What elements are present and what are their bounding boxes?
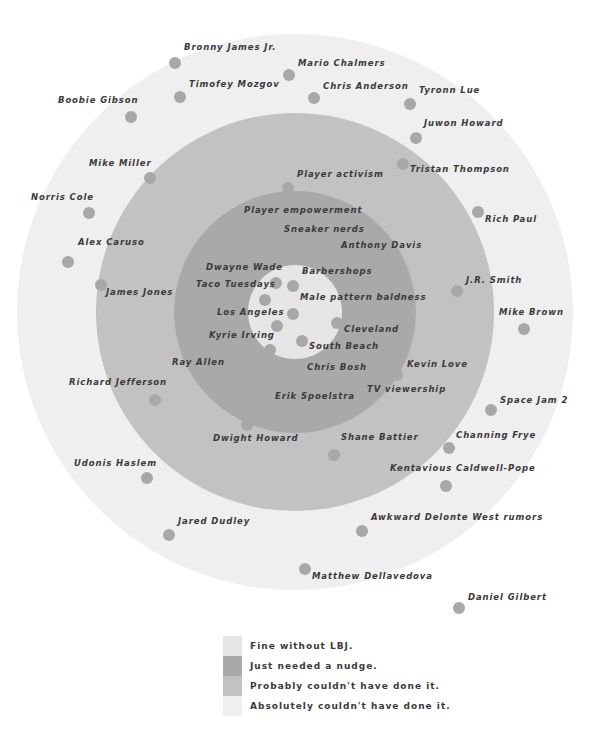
legend-label: Just needed a nudge. xyxy=(250,661,378,671)
data-point-label: Chris Anderson xyxy=(323,81,409,91)
data-point-dot xyxy=(169,57,181,69)
data-point-label: Mike Brown xyxy=(499,307,564,317)
data-point-label: Erik Spoelstra xyxy=(275,391,355,401)
data-point-dot xyxy=(440,480,452,492)
data-point-label: Juwon Howard xyxy=(424,118,504,128)
data-point-dot xyxy=(149,394,161,406)
data-point-label: Kentavious Caldwell-Pope xyxy=(390,463,536,473)
data-point-dot xyxy=(397,158,409,170)
data-point-label: Mario Chalmers xyxy=(298,58,386,68)
data-point-label: Tristan Thompson xyxy=(410,164,510,174)
data-point-label: Matthew Dellavedova xyxy=(312,571,433,581)
data-point-label: James Jones xyxy=(106,287,173,297)
data-point-label: Male pattern baldness xyxy=(300,292,426,302)
legend-swatch-nudge xyxy=(223,656,242,676)
data-point-dot xyxy=(174,91,186,103)
data-point-dot xyxy=(299,563,311,575)
data-point-dot xyxy=(472,206,484,218)
ring-chart: Bronny James Jr.Mario ChalmersTimofey Mo… xyxy=(0,0,590,620)
data-point-label: Jared Dudley xyxy=(178,516,250,526)
data-point-label: Daniel Gilbert xyxy=(468,592,547,602)
data-point-dot xyxy=(328,449,340,461)
data-point-label: Rich Paul xyxy=(485,214,537,224)
data-point-dot xyxy=(141,472,153,484)
data-point-dot xyxy=(62,256,74,268)
legend: Fine without LBJ. Just needed a nudge. P… xyxy=(223,636,451,716)
data-point-label: Dwayne Wade xyxy=(206,262,283,272)
data-point-dot xyxy=(264,344,276,356)
data-point-label: Timofey Mozgov xyxy=(189,79,280,89)
data-point-label: Alex Caruso xyxy=(78,237,145,247)
data-point-label: Norris Cole xyxy=(31,192,94,202)
data-point-dot xyxy=(163,529,175,541)
data-point-label: Los Angeles xyxy=(217,307,284,317)
legend-item-probably: Probably couldn't have done it. xyxy=(223,676,451,696)
data-point-label: Taco Tuesdays xyxy=(196,279,276,289)
legend-swatch-probably xyxy=(223,676,242,696)
legend-swatch-absolutely xyxy=(223,696,242,716)
data-point-label: Ray Allen xyxy=(172,357,225,367)
data-point-dot xyxy=(241,419,253,431)
data-point-label: Sneaker nerds xyxy=(284,224,365,234)
data-point-label: Cleveland xyxy=(344,324,399,334)
legend-item-nudge: Just needed a nudge. xyxy=(223,656,451,676)
data-point-label: Kyrie Irving xyxy=(209,330,275,340)
data-point-dot xyxy=(282,182,294,194)
data-point-dot xyxy=(125,111,137,123)
data-point-label: South Beach xyxy=(309,341,379,351)
legend-label: Fine without LBJ. xyxy=(250,641,353,651)
data-point-dot xyxy=(356,525,368,537)
data-point-label: Bronny James Jr. xyxy=(184,42,276,52)
data-point-label: Space Jam 2 xyxy=(500,395,568,405)
data-point-dot xyxy=(518,323,530,335)
data-point-dot xyxy=(308,92,320,104)
data-point-dot xyxy=(144,172,156,184)
data-point-dot xyxy=(287,308,299,320)
data-point-dot xyxy=(410,132,422,144)
data-point-dot xyxy=(283,69,295,81)
data-point-label: Mike Miller xyxy=(89,158,152,168)
data-point-label: Chris Bosh xyxy=(307,362,367,372)
data-point-label: Kevin Love xyxy=(407,359,468,369)
data-point-label: Awkward Delonte West rumors xyxy=(371,512,543,522)
data-point-label: J.R. Smith xyxy=(466,275,522,285)
data-point-dot xyxy=(404,98,416,110)
data-point-label: Boobie Gibson xyxy=(58,95,139,105)
data-point-dot xyxy=(451,285,463,297)
data-point-label: Barbershops xyxy=(302,266,372,276)
data-point-dot xyxy=(485,404,497,416)
data-point-label: Anthony Davis xyxy=(341,240,422,250)
data-point-dot xyxy=(259,294,271,306)
data-point-dot xyxy=(453,602,465,614)
data-point-label: Tyronn Lue xyxy=(419,85,480,95)
data-point-label: Richard Jefferson xyxy=(69,377,167,387)
data-point-label: Channing Frye xyxy=(456,430,536,440)
data-point-dot xyxy=(331,317,343,329)
data-point-dot xyxy=(296,335,308,347)
data-point-label: Player empowerment xyxy=(244,205,362,215)
data-point-label: Shane Battier xyxy=(341,432,419,442)
legend-label: Probably couldn't have done it. xyxy=(250,681,440,691)
data-point-dot xyxy=(287,280,299,292)
data-point-label: Dwight Howard xyxy=(213,433,299,443)
legend-swatch-fine xyxy=(223,636,242,656)
legend-label: Absolutely couldn't have done it. xyxy=(250,701,451,711)
data-point-label: Udonis Haslem xyxy=(74,458,157,468)
data-point-dot xyxy=(83,207,95,219)
legend-item-fine: Fine without LBJ. xyxy=(223,636,451,656)
data-point-dot xyxy=(391,369,403,381)
data-point-dot xyxy=(443,442,455,454)
data-point-label: Player activism xyxy=(297,169,384,179)
legend-item-absolutely: Absolutely couldn't have done it. xyxy=(223,696,451,716)
data-point-label: TV viewership xyxy=(367,384,446,394)
